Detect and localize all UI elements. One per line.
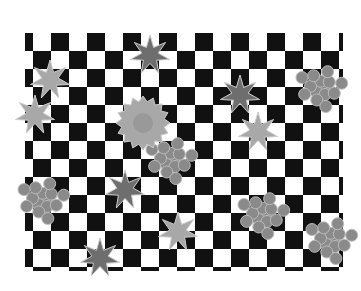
grape-flower-icon (270, 214, 282, 226)
grape-flower-icon (21, 200, 33, 212)
grape-flower-icon (18, 184, 30, 196)
grape-flower-icon (170, 173, 182, 185)
maple-leaf-icon (239, 112, 278, 150)
grape-flower-icon (296, 72, 308, 84)
grape-flower-icon (309, 240, 321, 252)
grape-flower-icon (238, 199, 250, 211)
grape-flower-icon (332, 218, 344, 230)
grape-flower-icon (264, 193, 276, 205)
grape-flower-icon (308, 70, 320, 82)
grape-flower-icon (278, 204, 290, 216)
maple-leaf-icon (16, 95, 55, 133)
grape-flower-icon (149, 160, 161, 172)
floral-motifs (0, 0, 361, 291)
grape-flower-icon (299, 88, 311, 100)
maple-leaf-icon (31, 60, 70, 98)
grape-flower-icon (320, 101, 332, 113)
grape-flower-icon (338, 239, 350, 251)
grape-flower-icon (346, 229, 358, 241)
grape-flower-icon (262, 228, 274, 240)
grape-flower-icon (50, 199, 62, 211)
maple-leaf-icon (221, 75, 260, 113)
grape-flower-icon (42, 213, 54, 225)
maple-leaf-icon (81, 238, 120, 276)
grape-flower-icon (30, 182, 42, 194)
grape-flower-icon (172, 138, 184, 150)
grape-flower-icon (328, 87, 340, 99)
maple-leaf-icon (131, 35, 170, 73)
grape-flower-icon (306, 224, 318, 236)
grape-flower-icon (330, 253, 342, 265)
grape-flower-icon (250, 197, 262, 209)
grape-flower-icon (178, 159, 190, 171)
grape-flower-icon (322, 66, 334, 78)
maple-leaf-icon (159, 212, 198, 250)
maple-leaf-icon (106, 170, 145, 208)
grape-flower-icon (318, 222, 330, 234)
grape-flower-icon (58, 189, 70, 201)
grape-flower-icon (241, 215, 253, 227)
grape-flower-icon (336, 77, 348, 89)
chrysanthemum-center (133, 113, 153, 133)
grape-flower-icon (186, 149, 198, 161)
grape-flower-icon (44, 178, 56, 190)
grape-flower-icon (158, 142, 170, 154)
